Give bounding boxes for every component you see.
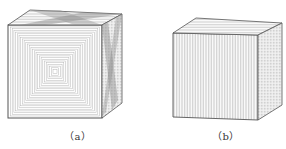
cube-b-front-face bbox=[173, 33, 258, 120]
cube-a bbox=[8, 10, 122, 118]
panel-b-label: （b） bbox=[212, 128, 240, 143]
cube-b-side-face bbox=[258, 23, 282, 120]
cube-a-front-face bbox=[8, 25, 102, 118]
cube-a-top-face bbox=[8, 10, 122, 25]
cube-a-side-face bbox=[102, 14, 122, 118]
cube-b bbox=[173, 18, 282, 120]
figure-canvas bbox=[0, 0, 286, 149]
panel-a-label: （a） bbox=[64, 128, 91, 143]
